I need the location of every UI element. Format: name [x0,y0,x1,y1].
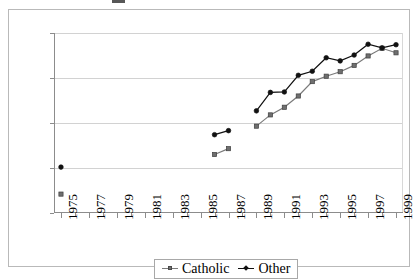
data-point [380,46,385,51]
series-layer [54,33,403,213]
data-point [338,59,343,64]
data-point [394,42,399,47]
data-point [59,192,63,196]
data-point [282,105,286,109]
legend-label: Catholic [182,261,229,276]
x-axis-label-1993: 1993 [317,194,330,220]
data-point [310,80,314,84]
x-axis-label-1989: 1989 [261,194,274,220]
x-axis-label-1977: 1977 [94,194,107,220]
data-point [324,55,329,60]
data-point [352,63,356,67]
data-point [324,74,328,78]
chart-frame: 2030405060 19751977197919811983198519871… [8,9,410,267]
legend-marker-icon [162,264,178,273]
data-point [59,165,64,170]
data-point [296,73,301,78]
x-axis-label-1991: 1991 [289,194,302,220]
x-axis-label-1999: 1999 [401,194,414,220]
x-axis-label-1997: 1997 [373,194,386,220]
data-point [268,113,272,117]
legend-entry-catholic: Catholic [162,261,229,276]
legend-label: Other [258,261,290,276]
x-axis-label-1987: 1987 [234,194,247,220]
x-axis-label-1985: 1985 [206,194,219,220]
data-point [352,53,357,58]
chart-legend: CatholicOther [154,259,298,279]
x-axis-label-1983: 1983 [178,194,191,220]
data-point [282,90,287,95]
y-tick-20 [50,213,54,214]
x-axis-label-1975: 1975 [66,194,79,220]
data-point [254,124,258,128]
x-axis-label-1979: 1979 [122,194,135,220]
series-catholic [59,46,398,196]
data-point [226,128,231,133]
x-axis-label-1981: 1981 [150,194,163,220]
legend-marker-icon [238,264,254,273]
data-point [394,51,398,55]
data-point [254,109,259,114]
data-point [268,90,273,95]
data-point [338,70,342,74]
data-point [366,54,370,58]
data-point [212,152,216,156]
data-point [296,94,300,98]
cropped-title-fragment [112,0,125,3]
data-point [226,147,230,151]
x-axis-label-1995: 1995 [345,194,358,220]
data-point [310,69,315,74]
data-point [212,132,217,137]
data-point [366,42,371,47]
legend-entry-other: Other [238,261,290,276]
plot-area [54,33,403,213]
